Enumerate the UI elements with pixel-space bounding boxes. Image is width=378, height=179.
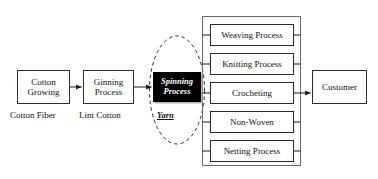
node-weaving-process[interactable]: Weaving Process xyxy=(210,24,294,46)
node-non-woven-label: Non-Woven xyxy=(228,117,276,127)
node-spinning-process-label: Spinning Process xyxy=(159,77,195,97)
caption-yarn: Yarn xyxy=(157,110,174,120)
node-netting-process-label: Netting Process xyxy=(222,146,283,156)
node-crocheting[interactable]: Crocheting xyxy=(210,82,294,104)
node-cotton-growing[interactable]: Cotton Growing xyxy=(17,70,70,104)
node-cotton-growing-label: Cotton Growing xyxy=(26,77,62,98)
node-crocheting-label: Crocheting xyxy=(230,88,274,98)
caption-cotton-fiber: Cotton Fiber xyxy=(10,110,56,120)
node-customer[interactable]: Customer xyxy=(312,70,367,104)
node-knitting-process[interactable]: Knitting Process xyxy=(210,53,294,75)
process-flow-diagram: Cotton Growing Ginning Process Spinning … xyxy=(0,0,378,179)
node-ginning-process-label: Ginning Process xyxy=(92,77,126,98)
node-customer-label: Customer xyxy=(320,82,359,92)
node-weaving-process-label: Weaving Process xyxy=(219,30,285,40)
node-knitting-process-label: Knitting Process xyxy=(220,59,284,69)
node-netting-process[interactable]: Netting Process xyxy=(210,140,294,162)
node-spinning-process[interactable]: Spinning Process xyxy=(153,72,201,102)
node-non-woven[interactable]: Non-Woven xyxy=(210,111,294,133)
node-ginning-process[interactable]: Ginning Process xyxy=(83,70,134,104)
caption-lint-cotton: Lint Cotton xyxy=(79,110,121,120)
